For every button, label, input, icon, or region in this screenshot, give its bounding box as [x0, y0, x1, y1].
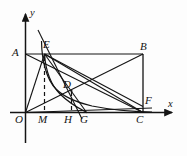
point-label-C: C: [136, 114, 143, 125]
point-label-H: H: [64, 114, 72, 125]
point-label-M: M: [38, 114, 47, 125]
point-label-E: E: [43, 39, 50, 50]
point-label-D: D: [63, 79, 71, 90]
point-label-B: B: [140, 41, 147, 52]
segment-OE: [26, 54, 45, 113]
axis-label-y: y: [30, 8, 35, 19]
axis-label-x: x: [168, 99, 173, 110]
point-label-O: O: [15, 114, 23, 125]
geometry-figure: y x O M H G C A B E D F: [0, 0, 187, 156]
segment-EC: [45, 54, 144, 113]
geometry-canvas: [0, 0, 187, 156]
point-label-F: F: [145, 95, 152, 106]
point-label-A: A: [12, 47, 19, 58]
point-D-mark: [70, 90, 72, 92]
point-label-G: G: [80, 114, 88, 125]
